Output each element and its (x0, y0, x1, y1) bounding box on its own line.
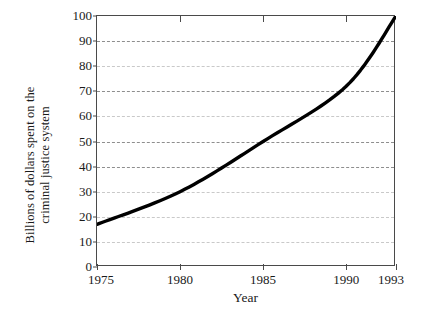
y-tick-label-10: 10 (79, 234, 92, 250)
y-axis-title: Billions of dollars spent on the crimina… (23, 35, 53, 295)
y-tick-label-70: 70 (79, 83, 92, 99)
chart-figure: Billions of dollars spent on the crimina… (0, 0, 426, 324)
x-tick-label-1980: 1980 (167, 272, 193, 288)
y-tick-label-90: 90 (79, 33, 92, 49)
x-tick-label-1985: 1985 (250, 272, 276, 288)
y-tick-label-100: 100 (73, 8, 93, 24)
y-tick-label-50: 50 (79, 134, 92, 150)
y-tick-label-80: 80 (79, 58, 92, 74)
x-tick-label-1975: 1975 (88, 272, 114, 288)
y-axis-title-line-1: Billions of dollars spent on the (23, 35, 38, 295)
x-axis-title: Year (96, 290, 395, 306)
y-axis-title-line-2: criminal justice system (38, 35, 53, 295)
y-tick-label-30: 30 (79, 184, 92, 200)
y-tick-label-20: 20 (79, 209, 92, 225)
data-series-line (97, 16, 396, 267)
x-tick-label-1993: 1993 (378, 272, 404, 288)
y-tick-label-60: 60 (79, 108, 92, 124)
y-tick-label-40: 40 (79, 159, 92, 175)
x-tick-label-1990: 1990 (333, 272, 359, 288)
plot-area: 100 90 80 70 60 50 40 30 20 10 0 1975 19… (96, 15, 395, 266)
x-tickmark-1993 (396, 264, 397, 270)
